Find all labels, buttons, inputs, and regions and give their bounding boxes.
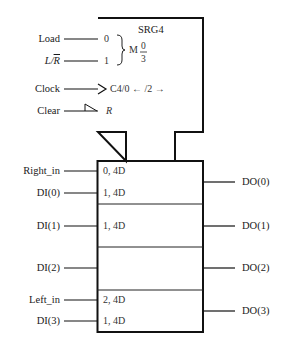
- qual-di0: 1, 4D: [103, 187, 125, 199]
- qual-left-in: 2, 4D: [103, 294, 125, 306]
- input-label-right-in: Right_in: [23, 165, 60, 177]
- input-label-clock: Clock: [35, 83, 60, 95]
- input-label-left-in: Left_in: [29, 294, 60, 306]
- clock-triangle-icon: [98, 84, 106, 94]
- qual-right-in: 0, 4D: [103, 165, 125, 177]
- mode-denominator: 3: [141, 53, 146, 65]
- mode-numerator: 0: [141, 40, 146, 52]
- pin-qual-lr: 1: [104, 55, 109, 67]
- qual-di1: 1, 4D: [103, 220, 125, 232]
- pin-qual-clock: C4/0 ← /2 →: [110, 83, 165, 95]
- mode-label: M: [129, 44, 138, 56]
- active-low-indicator-icon: [85, 104, 97, 111]
- qual-di3: 1, 4D: [103, 315, 125, 327]
- input-label-di0: DI(0): [37, 187, 60, 199]
- output-label-do2: DO(2): [242, 262, 269, 274]
- brace-icon: [117, 35, 125, 65]
- pin-qual-load: 0: [104, 33, 109, 45]
- input-label-di3: DI(3): [37, 315, 60, 327]
- block-title: SRG4: [138, 24, 164, 36]
- input-label-di1: DI(1): [37, 220, 60, 232]
- input-label-load: Load: [38, 33, 60, 45]
- input-label-di2: DI(2): [37, 262, 60, 274]
- pin-qual-clear: R: [106, 105, 112, 117]
- output-label-do3: DO(3): [242, 305, 269, 317]
- lr-bar: R: [54, 55, 60, 66]
- input-label-lr: L/R: [45, 55, 60, 67]
- lr-prefix: L/: [45, 55, 54, 66]
- output-label-do1: DO(1): [242, 220, 269, 232]
- output-label-do0: DO(0): [242, 176, 269, 188]
- input-label-clear: Clear: [37, 105, 60, 117]
